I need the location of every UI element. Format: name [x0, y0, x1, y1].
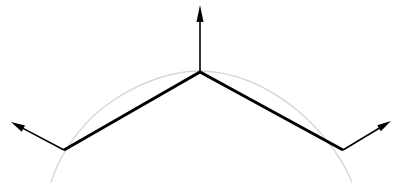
vector-diagram-svg — [0, 0, 401, 183]
diagram-canvas — [0, 0, 401, 183]
